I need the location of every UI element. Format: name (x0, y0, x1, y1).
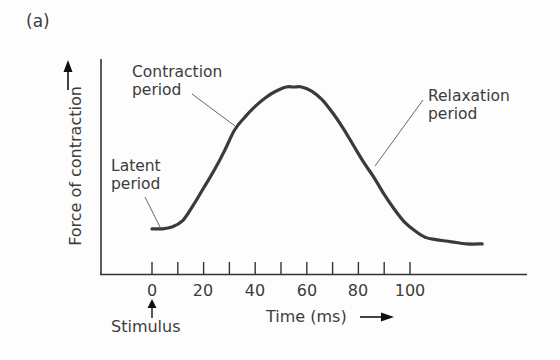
x-tick-label: 60 (297, 281, 317, 300)
y-axis-label: Force of contraction (66, 86, 85, 246)
x-axis-label: Time (ms) (266, 308, 347, 326)
x-tick-label: 40 (245, 281, 265, 300)
relaxation-label: Relaxation period (428, 87, 510, 123)
contraction-label: Contraction period (132, 63, 222, 99)
y-arrow-icon (64, 60, 73, 72)
x-tick-label: 0 (147, 281, 157, 300)
stimulus-arrow-icon (148, 299, 157, 308)
latent-label: Latent period (111, 157, 161, 193)
x-axis-ticks (152, 262, 410, 274)
x-tick-label: 20 (193, 281, 213, 300)
stimulus-label: Stimulus (111, 318, 181, 336)
x-tick-label: 100 (395, 281, 426, 300)
x-tick-label: 80 (348, 281, 368, 300)
x-arrow-icon (381, 313, 394, 322)
panel-label: (a) (26, 12, 50, 30)
relaxation-leader (375, 100, 423, 166)
latent-leader (145, 197, 160, 227)
